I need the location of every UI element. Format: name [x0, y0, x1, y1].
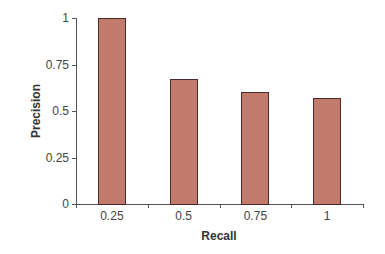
- y-axis-title: Precision: [29, 84, 43, 138]
- y-axis-line: [76, 18, 77, 204]
- x-tick-label: 0.5: [175, 209, 192, 223]
- x-tick-mark: [363, 204, 364, 208]
- bar-0.75: [241, 92, 269, 205]
- x-tick-label: 0.25: [100, 209, 123, 223]
- y-tick-label: 0.75: [46, 58, 69, 72]
- x-tick-mark: [76, 204, 77, 208]
- y-tick-mark: [72, 65, 76, 66]
- bar-0.25: [98, 18, 126, 205]
- x-tick-mark: [220, 204, 221, 208]
- y-tick-label: 0: [62, 197, 69, 211]
- y-tick-mark: [72, 111, 76, 112]
- y-tick-label: 0.5: [52, 104, 69, 118]
- x-tick-label: 1: [324, 209, 331, 223]
- y-tick-label: 1: [62, 11, 69, 25]
- bar-1: [313, 98, 341, 205]
- x-tick-mark: [148, 204, 149, 208]
- bar-chart: Precision Recall 00.250.50.751 0.250.50.…: [0, 0, 385, 254]
- y-tick-label: 0.25: [46, 151, 69, 165]
- x-tick-label: 0.75: [244, 209, 267, 223]
- y-tick-mark: [72, 18, 76, 19]
- x-tick-mark: [291, 204, 292, 208]
- x-axis-title: Recall: [201, 229, 236, 243]
- bar-0.5: [170, 79, 198, 205]
- y-tick-mark: [72, 158, 76, 159]
